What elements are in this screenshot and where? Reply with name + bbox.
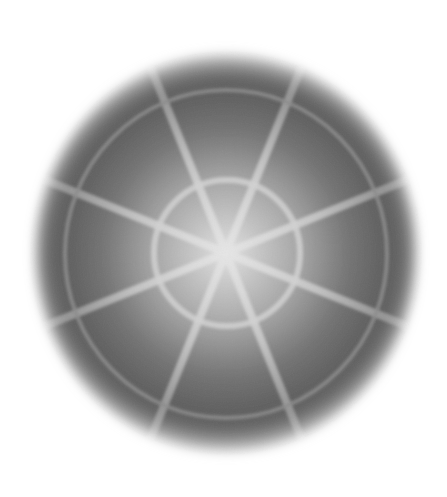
radial-disk-image xyxy=(0,0,447,497)
